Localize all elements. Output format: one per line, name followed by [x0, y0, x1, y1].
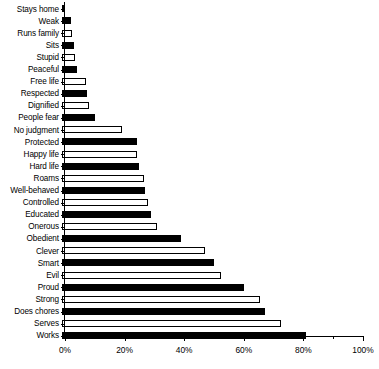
bar-category-label: Evil	[0, 271, 62, 280]
y-axis-tick	[61, 82, 65, 83]
y-axis-tick	[61, 239, 65, 240]
bar	[62, 211, 151, 218]
bar-track	[62, 281, 376, 293]
bar-track	[62, 148, 376, 160]
bar-row: Respected	[0, 88, 379, 100]
bar-category-label: Roams	[0, 174, 62, 183]
x-axis-major-tick	[65, 336, 66, 341]
bar-row: Controlled	[0, 197, 379, 209]
bar-category-label: Serves	[0, 319, 62, 328]
bar-track	[62, 112, 376, 124]
bar-track	[62, 51, 376, 63]
bar	[62, 223, 157, 230]
bar-track	[62, 209, 376, 221]
y-axis-tick	[61, 203, 65, 204]
bar-row: Educated	[0, 209, 379, 221]
y-axis-tick	[61, 287, 65, 288]
bar-track	[62, 172, 376, 184]
bar-category-label: Sits	[0, 41, 62, 50]
y-axis-tick	[61, 299, 65, 300]
bar-row: Dignified	[0, 100, 379, 112]
bar-row: Sits	[0, 39, 379, 51]
x-axis-tick-label: 60%	[235, 345, 252, 355]
bar-row: Evil	[0, 269, 379, 281]
x-axis-tick-label: 20%	[116, 345, 133, 355]
x-axis-minor-tick	[333, 336, 334, 339]
y-axis-tick	[61, 106, 65, 107]
bar-track	[62, 124, 376, 136]
y-axis-tick	[61, 154, 65, 155]
bar-track	[62, 76, 376, 88]
bar-category-label: Well-behaved	[0, 186, 62, 195]
bar-category-label: Clever	[0, 247, 62, 256]
bar	[62, 138, 137, 145]
bar-track	[62, 64, 376, 76]
bar-category-label: Controlled	[0, 198, 62, 207]
bar	[62, 163, 139, 170]
bar-category-label: Smart	[0, 259, 62, 268]
bar-row: Does chores	[0, 306, 379, 318]
x-axis-minor-tick	[274, 336, 275, 339]
bar	[62, 114, 95, 121]
bar-row: People fear	[0, 112, 379, 124]
bar-category-label: Runs family	[0, 29, 62, 38]
bar-track	[62, 221, 376, 233]
y-axis-tick	[61, 251, 65, 252]
bar-category-label: People fear	[0, 113, 62, 122]
bar-row: Roams	[0, 172, 379, 184]
x-axis-tick-label: 40%	[176, 345, 193, 355]
y-axis-tick	[61, 33, 65, 34]
bar-category-label: Stays home	[0, 5, 62, 14]
bar-track	[62, 197, 376, 209]
y-axis-tick	[61, 9, 65, 10]
bar-track	[62, 39, 376, 51]
bar	[62, 90, 87, 97]
bar-track	[62, 136, 376, 148]
y-axis-tick	[61, 45, 65, 46]
bar-row: Peaceful	[0, 64, 379, 76]
bar-row: Free life	[0, 76, 379, 88]
bar-category-label: Dignified	[0, 101, 62, 110]
bar	[62, 235, 181, 242]
x-axis-major-tick	[125, 336, 126, 341]
y-axis-tick	[61, 130, 65, 131]
bar-track	[62, 293, 376, 305]
bar	[62, 187, 145, 194]
bar	[62, 320, 281, 327]
bar	[62, 78, 86, 85]
y-axis-tick	[61, 142, 65, 143]
bar-track	[62, 160, 376, 172]
bar-category-label: Respected	[0, 89, 62, 98]
bar-row: Proud	[0, 281, 379, 293]
bar	[62, 272, 221, 279]
bar-category-label: Does chores	[0, 307, 62, 316]
y-axis-tick	[61, 215, 65, 216]
bar-track	[62, 269, 376, 281]
bar-row: Runs family	[0, 27, 379, 39]
bar-row: Clever	[0, 245, 379, 257]
y-axis-tick	[61, 166, 65, 167]
x-axis-major-tick	[363, 336, 364, 341]
x-axis-major-tick	[184, 336, 185, 341]
bar-row: Smart	[0, 257, 379, 269]
bar-category-label: Happy life	[0, 150, 62, 159]
bar-track	[62, 185, 376, 197]
bar-track	[62, 245, 376, 257]
bar	[62, 151, 137, 158]
x-axis-minor-tick	[214, 336, 215, 339]
bar-track	[62, 27, 376, 39]
y-axis-tick	[61, 70, 65, 71]
bar-track	[62, 3, 376, 15]
bar	[62, 175, 144, 182]
bar	[62, 308, 265, 315]
y-axis-tick	[61, 191, 65, 192]
bar	[62, 284, 244, 291]
bar	[62, 247, 205, 254]
bar-category-label: Works	[0, 331, 62, 340]
bar-category-label: Weak	[0, 17, 62, 26]
bar-row: Protected	[0, 136, 379, 148]
x-axis-tick-label: 0%	[59, 345, 71, 355]
bar-category-label: Free life	[0, 77, 62, 86]
bar-track	[62, 233, 376, 245]
bar-category-label: Strong	[0, 295, 62, 304]
